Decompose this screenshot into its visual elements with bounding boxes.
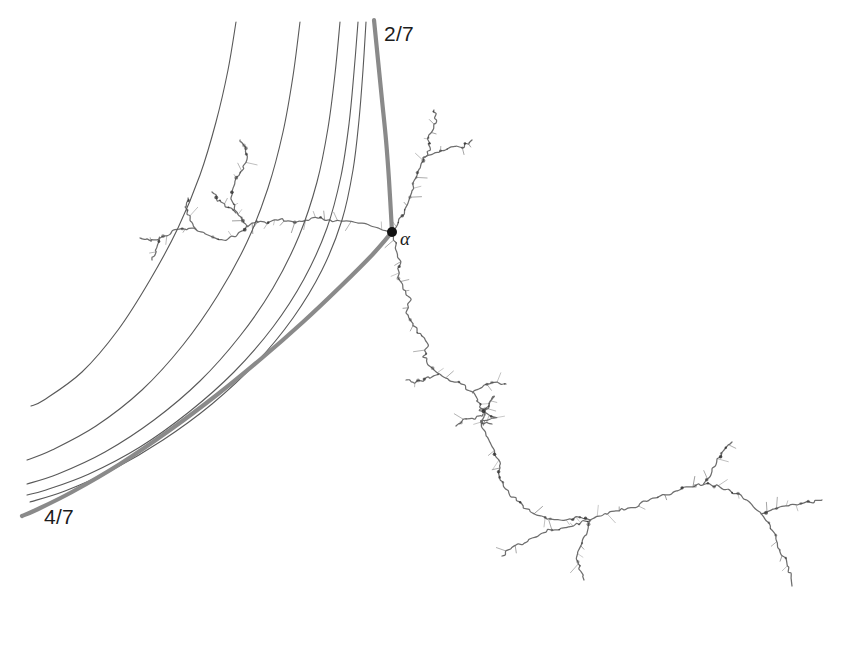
julia-filament-node	[657, 496, 659, 498]
julia-filament-node	[519, 501, 521, 503]
julia-filament-node	[576, 560, 579, 563]
julia-filament-node	[587, 522, 591, 526]
julia-set-figure: 2/7 4/7 α	[0, 0, 843, 662]
julia-filament-node	[243, 228, 247, 232]
julia-filament-spur	[403, 308, 408, 309]
alpha-fixed-point-marker	[387, 227, 397, 237]
julia-filament-node	[707, 482, 709, 484]
julia-filament-node	[731, 492, 733, 494]
julia-filament-node	[785, 557, 787, 559]
julia-filament-node	[587, 521, 589, 523]
julia-filament-node	[416, 171, 419, 174]
julia-filament-node	[214, 195, 218, 199]
julia-filament-node	[157, 240, 160, 243]
julia-filament-node	[232, 209, 234, 211]
julia-filament-node	[504, 383, 506, 385]
julia-filament-node	[558, 529, 559, 530]
julia-filament-node	[705, 478, 708, 481]
julia-filament-node	[768, 521, 771, 524]
julia-filament-node	[680, 486, 683, 489]
julia-filament-node	[465, 418, 467, 420]
julia-filament-node	[398, 222, 400, 224]
julia-filament-node	[240, 216, 243, 219]
julia-filament-node	[549, 518, 552, 521]
julia-filament-node	[437, 374, 439, 376]
julia-filament-node	[770, 528, 772, 530]
julia-filament-node	[712, 485, 715, 488]
julia-filament-node	[490, 381, 494, 385]
figure-canvas	[0, 0, 843, 662]
julia-filament-node	[412, 182, 415, 185]
julia-filament-node	[319, 216, 322, 219]
julia-filament-node	[719, 455, 723, 459]
julia-filament-node	[219, 199, 221, 201]
julia-filament-node	[469, 142, 470, 143]
julia-filament-node	[490, 415, 493, 418]
julia-filament-node	[211, 235, 214, 238]
julia-filament-node	[774, 534, 777, 537]
julia-filament-node	[401, 214, 405, 218]
julia-filament-spur	[410, 197, 422, 198]
julia-filament-node	[409, 318, 412, 321]
julia-filament-spur	[424, 138, 427, 139]
julia-filament-node	[423, 377, 426, 380]
julia-filament-node	[720, 452, 723, 455]
julia-filament-node	[493, 452, 497, 456]
julia-filament-node	[579, 516, 581, 518]
julia-filament-node	[181, 227, 184, 230]
julia-filament-node	[807, 500, 810, 503]
julia-filament-node	[571, 518, 574, 521]
julia-filament-node	[578, 523, 580, 525]
julia-filament-node	[459, 421, 463, 425]
julia-filament-node	[488, 405, 490, 407]
julia-filament-node	[579, 565, 581, 567]
julia-filament-node	[498, 476, 501, 479]
julia-filament-node	[693, 484, 697, 488]
julia-filament-node	[428, 142, 430, 144]
julia-filament-node	[502, 481, 504, 483]
ray-label-4-7: 4/7	[44, 505, 74, 529]
julia-filament-node	[581, 542, 583, 544]
julia-filament-node	[416, 378, 420, 382]
julia-filament-node	[416, 332, 418, 334]
julia-filament-node	[458, 381, 461, 384]
julia-filament-node	[764, 511, 768, 515]
julia-filament-node	[425, 353, 427, 355]
alpha-fixed-point-label: α	[400, 228, 410, 250]
julia-filament-node	[395, 242, 397, 244]
julia-filament-node	[431, 366, 435, 370]
julia-filament-node	[489, 403, 490, 404]
julia-filament-node	[404, 209, 406, 211]
ray-label-2-7: 2/7	[384, 22, 414, 46]
julia-filament-node	[584, 517, 587, 520]
julia-filament-node	[239, 172, 241, 174]
landing-point-layer	[387, 227, 397, 237]
julia-filament-node	[161, 234, 165, 238]
julia-filament-node	[447, 148, 449, 150]
julia-filament-node	[245, 153, 248, 156]
figure-background	[0, 0, 843, 662]
julia-filament-node	[799, 502, 802, 505]
julia-filament-node	[396, 276, 400, 280]
julia-filament-node	[398, 265, 401, 268]
julia-filament-node	[421, 335, 423, 337]
julia-filament-node	[230, 190, 234, 194]
julia-filament-node	[217, 238, 219, 240]
julia-filament-node	[432, 111, 434, 113]
julia-filament-node	[497, 470, 501, 474]
julia-filament-node	[464, 142, 467, 145]
julia-filament-node	[242, 144, 246, 148]
julia-filament-node	[228, 207, 230, 209]
julia-filament-node	[725, 446, 727, 448]
